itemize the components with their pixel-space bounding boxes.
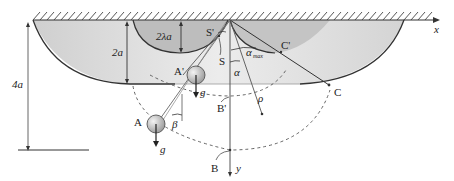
beta-label: β [171, 118, 178, 130]
label-s-prime: S' [206, 26, 214, 38]
alpha-max-label: α [246, 46, 252, 58]
alpha-label: α [234, 66, 240, 78]
alpha-max-sub: max [253, 53, 263, 59]
rho-endpoint [261, 113, 264, 116]
y-axis-arrow-icon [228, 172, 232, 177]
point-c-prime-marker [280, 51, 282, 53]
point-s-marker [218, 35, 220, 37]
dim-4a-label: 4a [12, 78, 24, 90]
x-axis-label: x [433, 23, 439, 35]
beta-arc [172, 114, 182, 115]
gravity-a-prime-label: g [200, 86, 206, 98]
point-c-marker [328, 84, 331, 87]
dim-2a-label: 2a [112, 46, 124, 58]
b-leader [216, 151, 229, 160]
gravity-a-label: g [160, 143, 166, 155]
dim-4a-arrow-top-icon [26, 22, 30, 27]
label-b: B [211, 162, 218, 174]
y-axis-label: y [235, 162, 241, 174]
ceiling-hatch [33, 12, 432, 20]
label-s: S [219, 55, 225, 67]
label-a: A [134, 116, 142, 128]
point-b-marker [229, 149, 232, 152]
label-b-prime: B' [217, 102, 226, 114]
label-a-prime: A' [174, 65, 184, 77]
dim-2lambda-a-label: 2λa [156, 30, 172, 42]
pendulum-diagram: x y 4a 2a 2λa β α α max g g [0, 0, 454, 181]
gravity-a-arrow-icon [153, 141, 159, 147]
label-rho: ρ [257, 92, 263, 104]
label-c: C [334, 86, 341, 98]
gravity-a-prime-arrow-icon [193, 92, 199, 98]
label-c-prime: C' [281, 39, 290, 51]
